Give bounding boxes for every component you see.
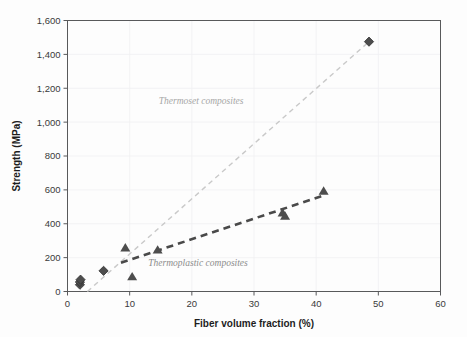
y-tick-label-1400: 1,400 <box>37 49 61 60</box>
y-tick-label-600: 600 <box>45 184 61 195</box>
y-tick-label-200: 200 <box>45 252 61 263</box>
y-tick-label-0: 0 <box>55 286 60 297</box>
chart-figure: 02004006008001,0001,2001,4001,600 010203… <box>0 0 467 337</box>
annotation-0: Thermoset composites <box>159 96 244 106</box>
y-tick-label-800: 800 <box>45 150 61 161</box>
x-tick-label-50: 50 <box>373 298 384 309</box>
y-tick-label-1600: 1,600 <box>37 15 61 26</box>
x-tick-label-30: 30 <box>249 298 260 309</box>
y-axis-title: Strength (MPa) <box>11 120 22 191</box>
x-tick-label-20: 20 <box>187 298 198 309</box>
annotation-1: Thermoplastic composites <box>148 258 248 268</box>
x-tick-label-40: 40 <box>311 298 322 309</box>
y-tick-label-1000: 1,000 <box>37 117 61 128</box>
y-tick-label-1200: 1,200 <box>37 83 61 94</box>
x-tick-label-60: 60 <box>435 298 446 309</box>
x-tick-label-10: 10 <box>124 298 135 309</box>
chart-background <box>0 0 467 337</box>
y-tick-label-400: 400 <box>45 218 61 229</box>
x-tick-label-0: 0 <box>65 298 70 309</box>
strength-vs-fiber-volume-fraction-chart: 02004006008001,0001,2001,4001,600 010203… <box>0 0 467 337</box>
x-axis-title: Fiber volume fraction (%) <box>194 318 314 329</box>
